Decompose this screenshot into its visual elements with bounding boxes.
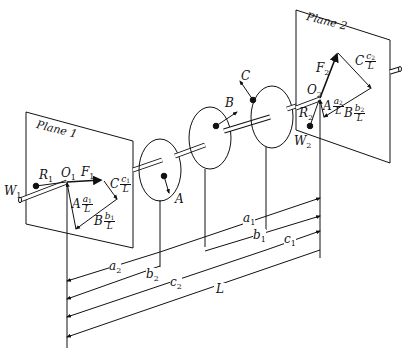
dim-a1: a1 — [243, 212, 255, 227]
dim-b2: b2 — [146, 268, 159, 283]
mass-c-label: C — [241, 70, 250, 82]
balancing-diagram: Plane 1 Plane 2 W1 R1 O1 F1 Cc1L Aa1L Bb… — [0, 0, 410, 355]
f2-label: F2 — [316, 62, 329, 77]
c1-vector-label: Cc1L — [110, 175, 131, 194]
a1-vector-label: Aa1L — [72, 195, 93, 214]
dim-l: L — [214, 283, 226, 295]
w2-label: W2 — [294, 135, 311, 150]
dim-b1: b1 — [253, 229, 266, 244]
w1-label: W1 — [4, 185, 21, 200]
dim-a2: a2 — [109, 260, 121, 275]
disk-c — [251, 86, 293, 148]
mass-b-label: B — [225, 97, 234, 109]
r1-label: R1 — [39, 169, 53, 184]
mass-a-label: A — [175, 193, 184, 205]
o2-label: O2 — [307, 84, 322, 99]
dim-c1: c1 — [284, 233, 296, 248]
f1-label: F1 — [81, 166, 94, 181]
o1-label: O1 — [61, 167, 76, 182]
a2-vector-label: Aa2L — [323, 97, 344, 116]
disk-b — [189, 107, 231, 169]
r2-label: R2 — [299, 107, 313, 122]
b1-vector-label: Bb1L — [94, 212, 115, 231]
b2-vector-label: Bb2L — [344, 104, 365, 123]
dim-c2: c2 — [170, 276, 182, 291]
c2-vector-label: Cc2L — [355, 52, 376, 71]
